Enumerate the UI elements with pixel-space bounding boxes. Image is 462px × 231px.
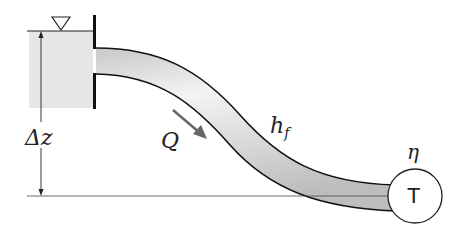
head-loss-main: h [270,113,284,138]
reservoir-water [29,31,93,108]
flow-label: Q [161,128,179,153]
diagram-graphics [0,0,462,231]
pipe [96,48,395,211]
free-surface-icon [52,17,70,30]
elevation-label: Δz [25,125,52,150]
elevation-arrowhead-down [39,189,44,196]
tank-wall-upper [93,15,96,49]
head-loss-label: hf [270,113,289,141]
diagram-canvas: Δz Q hf η T [0,0,462,231]
head-loss-subscript: f [284,125,289,141]
efficiency-label: η [407,140,419,164]
tank-wall-lower [93,73,96,109]
flow-arrowhead [193,125,207,139]
turbine-label: T [407,183,420,209]
